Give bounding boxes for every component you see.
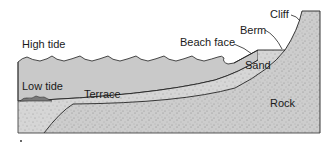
label-sand: Sand: [245, 60, 271, 71]
beach-profile-diagram: [0, 0, 335, 144]
label-berm: Berm: [240, 25, 266, 36]
figure-mark: [20, 140, 22, 142]
berm-leader: [265, 30, 282, 49]
beach-face-leader: [234, 44, 252, 54]
cliff-leader: [291, 15, 300, 21]
label-high-tide: High tide: [22, 39, 65, 50]
label-cliff: Cliff: [270, 9, 289, 20]
label-terrace: Terrace: [84, 89, 121, 100]
label-beach-face: Beach face: [180, 37, 235, 48]
label-low-tide: Low tide: [22, 81, 63, 92]
label-rock: Rock: [270, 98, 295, 109]
